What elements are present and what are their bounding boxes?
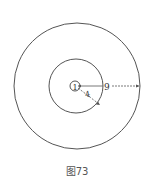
figure-caption: 图73 <box>0 163 154 178</box>
outer-radius-arrowhead <box>136 85 140 88</box>
inner-radius-label: 1 <box>73 83 78 92</box>
concentric-circles-diagram: 1 4 9 <box>0 0 154 183</box>
middle-radius-label: 4 <box>84 90 91 100</box>
outer-radius-label: 9 <box>104 82 110 92</box>
